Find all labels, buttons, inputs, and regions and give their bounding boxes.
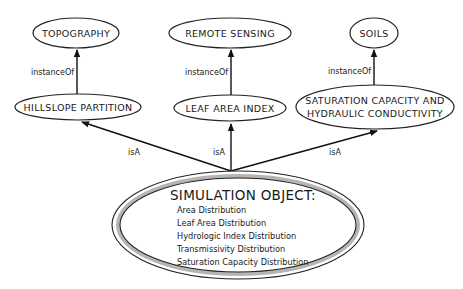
node-label: HILLSLOPE PARTITION <box>24 102 133 113</box>
node-label-line2: HYDRAULIC CONDUCTIVITY <box>307 108 443 119</box>
simulation-attribute: Transmissivity Distribution <box>176 244 285 254</box>
class-diagram: instanceOf instanceOf instanceOf isA isA… <box>0 0 463 289</box>
edge-sim-to-leaf: isA <box>213 124 231 171</box>
simulation-attribute: Saturation Capacity Distribution <box>177 257 308 267</box>
edge-label-isa: isA <box>329 148 341 157</box>
edge-label-isa: isA <box>213 148 225 157</box>
node-label: LEAF AREA INDEX <box>185 103 274 114</box>
simulation-attribute: Hydrologic Index Distribution <box>177 231 296 241</box>
simulation-object-title: SIMULATION OBJECT: <box>170 187 316 203</box>
node-label: SOILS <box>359 28 388 39</box>
edge-sim-to-hillslope: isA <box>82 122 231 171</box>
edge-sim-to-saturation: isA <box>231 131 377 171</box>
node-leaf-area-index[interactable]: LEAF AREA INDEX <box>174 95 286 121</box>
edge-label-instanceof: instanceOf <box>31 68 74 77</box>
node-soils[interactable]: SOILS <box>350 18 398 48</box>
node-label: REMOTE SENSING <box>185 28 275 39</box>
node-topography[interactable]: TOPOGRAPHY <box>33 18 119 48</box>
node-label: TOPOGRAPHY <box>41 28 110 39</box>
edge-label-instanceof: instanceOf <box>328 67 371 76</box>
edge-leaf-to-remote: instanceOf <box>185 50 231 96</box>
node-remote-sensing[interactable]: REMOTE SENSING <box>169 18 291 48</box>
simulation-attribute: Leaf Area Distribution <box>177 218 266 228</box>
node-simulation-object[interactable]: SIMULATION OBJECT: Area Distribution Lea… <box>112 171 364 279</box>
node-hillslope-partition[interactable]: HILLSLOPE PARTITION <box>15 94 141 120</box>
edge-label-instanceof: instanceOf <box>185 68 228 77</box>
simulation-attribute: Area Distribution <box>177 205 246 215</box>
edge-hillslope-to-topography: instanceOf <box>31 50 77 96</box>
node-saturation-capacity[interactable]: SATURATION CAPACITY AND HYDRAULIC CONDUC… <box>296 85 454 129</box>
node-label-line1: SATURATION CAPACITY AND <box>305 95 444 106</box>
edge-label-isa: isA <box>128 148 140 157</box>
